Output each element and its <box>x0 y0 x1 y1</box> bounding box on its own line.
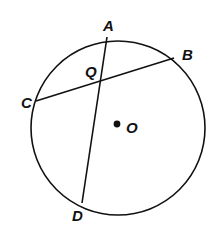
label-c: C <box>21 95 32 110</box>
geometry-figure <box>0 0 221 240</box>
circle-o <box>31 41 205 215</box>
chord-ad <box>82 37 107 203</box>
chord-cb <box>36 58 174 101</box>
label-d: D <box>72 208 83 223</box>
label-o: O <box>126 120 138 135</box>
label-a: A <box>103 18 114 33</box>
center-point-o <box>114 121 121 128</box>
label-q: Q <box>85 64 97 79</box>
label-b: B <box>182 47 193 62</box>
